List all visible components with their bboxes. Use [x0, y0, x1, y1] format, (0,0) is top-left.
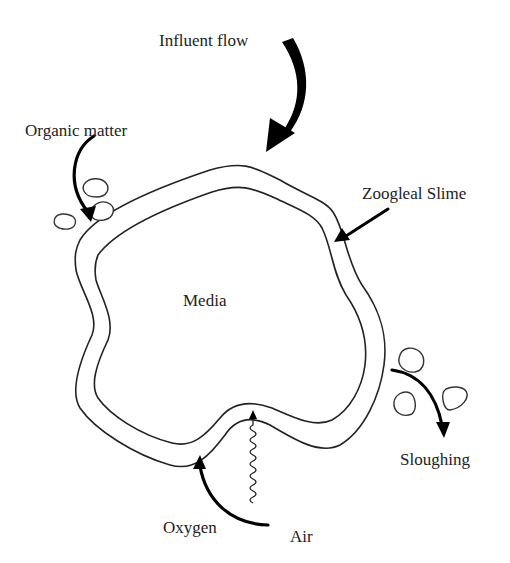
media-inner-outline: [94, 187, 365, 444]
zoogleal-slime-outer-outline: [75, 165, 385, 466]
air-diffusion-arrowhead: [249, 410, 257, 419]
oxygen-arrow: [200, 466, 268, 525]
organic-matter-arrow: [74, 136, 94, 212]
air-diffusion-wave: [250, 419, 256, 503]
sloughed-particle-2: [394, 392, 415, 415]
media-label: Media: [183, 292, 226, 309]
biofilm-diagram: [0, 0, 510, 563]
organic-particle-1: [83, 179, 108, 197]
influent-flow-arrow: [282, 38, 306, 132]
influent-flow-label: Influent flow: [159, 32, 248, 49]
organic-matter-label: Organic matter: [25, 122, 127, 139]
oxygen-label: Oxygen: [163, 519, 217, 536]
zoogleal-slime-label: Zoogleal Slime: [362, 185, 466, 202]
sloughed-particle-3: [443, 387, 467, 410]
sloughing-label: Sloughing: [400, 451, 470, 468]
air-label: Air: [290, 528, 313, 545]
sloughing-arrowhead: [436, 422, 450, 438]
zoogleal-slime-arrow: [346, 209, 388, 236]
organic-particle-3: [54, 214, 75, 229]
sloughed-particle-1: [399, 348, 424, 372]
